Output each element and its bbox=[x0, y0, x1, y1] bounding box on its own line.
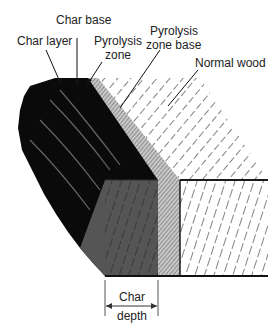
pyrolysis-zone-label-line1: Pyrolysis bbox=[94, 34, 142, 48]
normal-wood-label: Normal wood bbox=[195, 56, 266, 70]
pyrolysis-zone-label-line2: zone bbox=[105, 48, 131, 62]
char-base-label: Char base bbox=[56, 13, 111, 27]
normal-wood-front bbox=[180, 180, 268, 276]
char-layer-label: Char layer bbox=[17, 34, 72, 48]
char-depth-label-line2: depth bbox=[117, 309, 147, 323]
wood-char-diagram bbox=[0, 0, 276, 328]
char-depth-label-line1: Char bbox=[119, 290, 145, 304]
pyrolysis-zone-base-label-line2: zone base bbox=[146, 38, 201, 52]
pyrolysis-zone-base-label-line1: Pyrolysis bbox=[150, 24, 198, 38]
